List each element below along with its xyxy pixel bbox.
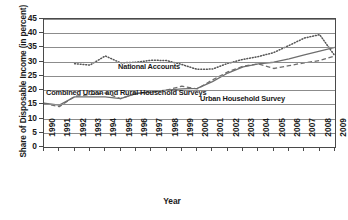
gridline (44, 33, 335, 34)
x-axis-tick-label: 1994 (108, 118, 118, 152)
y-axis-tick-label: 35 (13, 42, 37, 50)
x-axis-tick-label: 2006 (292, 118, 302, 152)
x-axis-tick-label: 1999 (185, 118, 195, 152)
x-axis-tick-mark (273, 148, 274, 151)
x-axis-tick-mark (74, 148, 75, 151)
x-axis-tick-label: 1990 (47, 118, 57, 152)
x-axis-tick-mark (43, 148, 44, 151)
series-label-national-accounts: National Accounts (118, 62, 180, 71)
x-axis-tick-mark (181, 148, 182, 151)
x-axis-tick-label: 2000 (200, 118, 210, 152)
gridline (44, 19, 335, 20)
x-axis-tick-mark (135, 148, 136, 151)
x-axis-tick-label: 2004 (261, 118, 271, 152)
x-axis-tick-label: 2009 (338, 118, 348, 152)
gridline (44, 76, 335, 77)
gridline (44, 47, 335, 48)
x-axis-tick-mark (211, 148, 212, 151)
x-axis-tick-mark (196, 148, 197, 151)
y-axis-tick-label: 10 (13, 114, 37, 122)
x-axis-tick-mark (104, 148, 105, 151)
y-axis-tick-label: 20 (13, 85, 37, 93)
y-axis-tick-label: 30 (13, 57, 37, 65)
x-axis-tick-label: 1997 (154, 118, 164, 152)
x-axis-tick-label: 2003 (246, 118, 256, 152)
x-axis-tick-mark (242, 148, 243, 151)
x-axis-tick-mark (150, 148, 151, 151)
gridline (44, 62, 335, 63)
series-label-urban-household: Urban Household Survey (200, 94, 285, 103)
x-axis-tick-mark (227, 148, 228, 151)
x-axis-tick-label: 1995 (124, 118, 134, 152)
x-axis-tick-label: 2008 (323, 118, 333, 152)
x-axis-tick-mark (120, 148, 121, 151)
x-axis-tick-label: 2007 (307, 118, 317, 152)
x-axis-tick-label: 1993 (93, 118, 103, 152)
x-axis-tick-label: 2002 (231, 118, 241, 152)
x-axis-tick-label: 1991 (62, 118, 72, 152)
y-axis-tick-label: 40 (13, 28, 37, 36)
x-axis-tick-mark (303, 148, 304, 151)
x-axis-title: Year (0, 196, 344, 206)
x-axis-tick-label: 1998 (170, 118, 180, 152)
x-axis-tick-label: 1992 (78, 118, 88, 152)
x-axis-tick-mark (334, 148, 335, 151)
y-axis-tick-label: 15 (13, 99, 37, 107)
x-axis-tick-mark (89, 148, 90, 151)
x-axis-tick-label: 2005 (277, 118, 287, 152)
x-axis-tick-mark (319, 148, 320, 151)
y-axis-tick-label: 5 (13, 128, 37, 136)
series-line-urban-household-survey (44, 56, 335, 107)
x-axis-tick-label: 2001 (215, 118, 225, 152)
x-axis-tick-mark (257, 148, 258, 151)
y-axis-tick-label: 25 (13, 71, 37, 79)
gridline (44, 104, 335, 105)
x-axis-tick-label: 1996 (139, 118, 149, 152)
x-axis-tick-mark (288, 148, 289, 151)
y-axis-tick-label: 0 (13, 142, 37, 150)
series-label-combined-urban-rural: Combined Urban and Rural Household Surve… (46, 88, 206, 97)
y-axis-tick-label: 45 (13, 14, 37, 22)
x-axis-tick-mark (58, 148, 59, 151)
x-axis-tick-mark (166, 148, 167, 151)
